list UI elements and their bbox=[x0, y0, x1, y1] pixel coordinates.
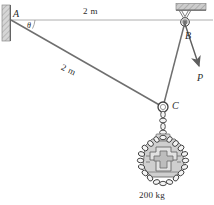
angle-arc-theta bbox=[33, 20, 36, 29]
cable-c-b bbox=[163, 22, 185, 107]
figure-canvas bbox=[0, 0, 214, 205]
wall-support-hatch bbox=[2, 5, 10, 41]
ceiling-support-hatch bbox=[176, 4, 206, 11]
label-load-mass: 200 kg bbox=[139, 190, 165, 200]
label-top-dimension: 2 m bbox=[83, 6, 98, 16]
label-force-p: P bbox=[197, 72, 203, 83]
chain-sling-vertical bbox=[160, 111, 167, 135]
label-point-a: A bbox=[13, 8, 19, 19]
label-point-c: C bbox=[172, 100, 179, 111]
statics-figure: A B C P θ 2 m 2 m 200 kg bbox=[0, 0, 214, 205]
label-point-b: B bbox=[185, 30, 191, 41]
cable-a-c bbox=[11, 20, 163, 107]
ring-connector bbox=[158, 102, 168, 112]
label-angle-theta: θ bbox=[27, 21, 31, 30]
